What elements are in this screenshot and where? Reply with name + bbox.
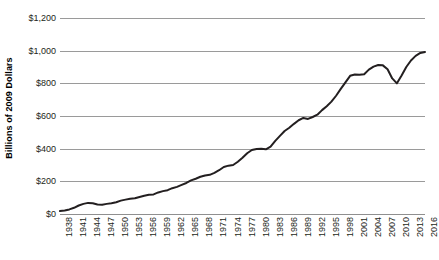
x-tick-label: 1995 [331, 217, 341, 237]
x-tick-label: 1950 [120, 217, 130, 237]
y-tick-label: $0 [4, 209, 56, 219]
x-tick-label: 2007 [387, 217, 397, 237]
y-tick-label: $400 [4, 144, 56, 154]
data-series-line [60, 18, 425, 214]
x-tick-label: 1959 [162, 217, 172, 237]
x-tick-label: 2013 [415, 217, 425, 237]
y-tick-label: $600 [4, 111, 56, 121]
x-tick-label: 1971 [218, 217, 228, 237]
x-tick-label: 2010 [401, 217, 411, 237]
x-tick-label: 1962 [176, 217, 186, 237]
x-tick-label: 1938 [64, 217, 74, 237]
x-tick-label: 1980 [261, 217, 271, 237]
y-tick-label: $200 [4, 176, 56, 186]
y-tick-label: $800 [4, 78, 56, 88]
x-axis-tick-labels: 1938194119441947195019531956195919621965… [60, 217, 425, 260]
x-tick-label: 2004 [373, 217, 383, 237]
x-tick-label: 1974 [233, 217, 243, 237]
x-tick-label: 1968 [204, 217, 214, 237]
gridline-0 [60, 214, 425, 215]
x-tick-label: 2016 [429, 217, 439, 237]
x-tick-label: 1944 [92, 217, 102, 237]
x-tick-label: 1986 [289, 217, 299, 237]
y-tick-label: $1,000 [4, 46, 56, 56]
x-tick-label: 1965 [190, 217, 200, 237]
x-tick-label: 1977 [247, 217, 257, 237]
x-tick-label: 1941 [78, 217, 88, 237]
x-tick-label: 1992 [317, 217, 327, 237]
x-tick-label: 1983 [275, 217, 285, 237]
plot-area [60, 18, 425, 214]
x-tick-label: 1947 [106, 217, 116, 237]
x-tick-label: 1998 [345, 217, 355, 237]
y-axis-tick-labels: $1,200$1,000$800$600$400$200$0 [0, 18, 56, 214]
y-tick-label: $1,200 [4, 13, 56, 23]
x-tick-label: 1956 [148, 217, 158, 237]
series-polyline [60, 52, 425, 211]
x-tick-label: 1953 [134, 217, 144, 237]
x-tick-label: 2001 [359, 217, 369, 237]
x-tick-label: 1989 [303, 217, 313, 237]
chart-figure: Billions of 2009 Dollars $1,200$1,000$80… [0, 0, 439, 260]
